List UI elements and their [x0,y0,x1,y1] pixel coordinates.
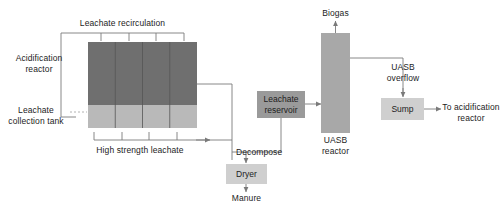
label-leachate-collection-tank: Leachate collection tank [2,105,70,126]
uasb-reactor-column [321,33,350,133]
label-manure: Manure [221,193,272,204]
label-biogas: Biogas [311,8,360,19]
label-to-acidification-reactor: To acidification reactor [441,102,501,123]
label-uasb-overflow: UASB overflow [378,62,428,83]
acidification-reactor-block [88,42,197,128]
box-label-dryer: Dryer [226,164,267,184]
label-high-strength-leachate: High strength leachate [80,145,200,156]
label-leachate-recirculation: Leachate recirculation [61,18,184,29]
label-acidification-reactor: Acidification reactor [8,53,70,74]
high-strength-leachate-bracket [94,132,232,140]
label-decompose: Decompose [236,147,296,158]
reactor-to-reservoir-connector [197,84,232,160]
box-label-leachate-reservoir: Leachate reservoir [257,91,305,118]
box-label-sump: Sump [381,98,424,120]
label-uasb-reactor: UASB reactor [311,135,360,156]
process-flow-diagram: Leachate recirculation Acidification rea… [0,0,501,206]
